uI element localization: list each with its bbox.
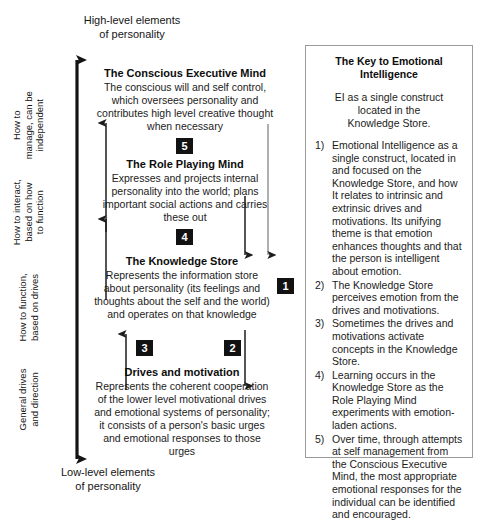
chip-5: 5 <box>176 138 193 154</box>
key-item-number: 2) <box>315 279 324 292</box>
node-body: Represents the coherent cooperation of t… <box>93 380 271 458</box>
key-item-text: Learning occurs in the Knowledge Store a… <box>332 369 455 431</box>
key-list-item: 3) Sometimes the drives and motivations … <box>315 317 463 367</box>
key-list-item: 5) Over time, through attempts at self m… <box>315 433 463 521</box>
node-body: The conscious will and self control, whi… <box>96 81 274 133</box>
key-list-item: 2) The Knowledge Store perceives emotion… <box>315 279 463 317</box>
node-body: Expresses and projects internal personal… <box>96 172 274 224</box>
node-title: The Knowledge Store <box>93 255 271 269</box>
range-label-general-drives: General drives and direction <box>17 350 40 450</box>
key-item-text: Sometimes the drives and motivations act… <box>332 317 458 367</box>
node-knowledge-store: The Knowledge Store Represents the infor… <box>93 255 271 321</box>
node-role-playing-mind: The Role Playing Mind Expresses and proj… <box>96 158 274 224</box>
node-title: The Conscious Executive Mind <box>96 67 274 81</box>
key-panel-title: The Key to Emotional Intelligence <box>315 55 463 81</box>
low-level-caption: Low-level elements of personality <box>28 466 188 493</box>
key-panel: The Key to Emotional Intelligence EI as … <box>305 45 473 458</box>
high-level-caption: High-level elements of personality <box>52 14 212 41</box>
key-panel-list: 1) Emotional Intelligence as a single co… <box>315 139 463 521</box>
range-label-function: How to function, based on drives <box>17 258 40 358</box>
key-item-text: Emotional Intelligence as a single const… <box>332 139 462 277</box>
key-item-text: The Knowledge Store perceives emotion fr… <box>332 279 459 316</box>
node-title: Drives and motivation <box>93 366 271 380</box>
key-item-number: 3) <box>315 317 324 330</box>
key-list-item: 1) Emotional Intelligence as a single co… <box>315 139 463 278</box>
key-item-number: 4) <box>315 369 324 382</box>
chip-4: 4 <box>176 229 193 245</box>
chip-3: 3 <box>136 340 153 356</box>
node-body: Represents the information store about p… <box>93 269 271 321</box>
chip-1: 1 <box>277 278 294 294</box>
key-panel-subtitle: EI as a single construct located in the … <box>315 91 463 130</box>
key-list-item: 4) Learning occurs in the Knowledge Stor… <box>315 369 463 432</box>
range-label-manage: How to manage, can be independent <box>11 75 46 175</box>
range-label-interact: How to interact, based on how to functio… <box>11 162 46 262</box>
key-item-number: 1) <box>315 139 324 152</box>
chip-2: 2 <box>224 340 241 356</box>
key-item-text: Over time, through attempts at self mana… <box>332 433 462 521</box>
node-drives-and-motivation: Drives and motivation Represents the coh… <box>93 366 271 458</box>
key-item-number: 5) <box>315 433 324 446</box>
node-conscious-executive-mind: The Conscious Executive Mind The conscio… <box>96 67 274 133</box>
node-title: The Role Playing Mind <box>96 158 274 172</box>
